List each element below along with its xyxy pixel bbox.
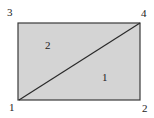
node-label-2: 2: [142, 102, 148, 114]
node-label-4: 4: [141, 7, 147, 19]
node-label-3: 3: [7, 6, 13, 18]
node-label-1: 1: [9, 101, 15, 113]
triangulated-rectangle-diagram: 3 4 1 2 2 1: [0, 0, 154, 118]
region-label-1: 1: [102, 71, 108, 83]
region-label-2: 2: [45, 39, 51, 51]
